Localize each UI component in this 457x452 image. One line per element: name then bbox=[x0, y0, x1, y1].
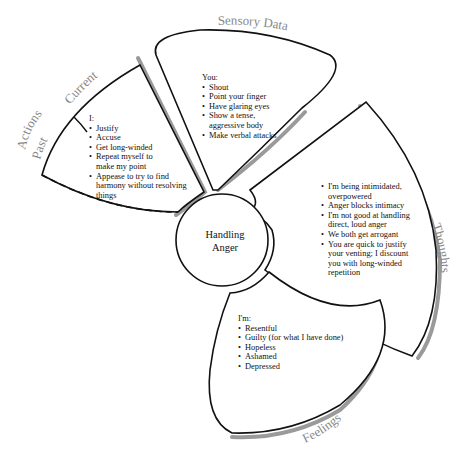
thoughts-list: I'm being intimidated, overpowered Anger… bbox=[321, 182, 411, 278]
list-item: We both get arrogant bbox=[321, 230, 411, 240]
feelings-text: I'm: Resentful Guilty (for what I have d… bbox=[238, 314, 358, 372]
list-item: Anger blocks intimacy bbox=[321, 201, 411, 211]
sensory-text: You: Shout Point your finger Have glarin… bbox=[202, 73, 312, 140]
list-item: Make verbal attacks bbox=[202, 131, 312, 141]
actions-heading: I: bbox=[89, 114, 199, 124]
list-item: Ashamed bbox=[238, 352, 358, 362]
actions-list: Justify Accuse Get long-winded Repeat my… bbox=[89, 124, 199, 201]
list-item: Appease to try to find harmony without r… bbox=[89, 172, 196, 201]
list-item: Get long-winded bbox=[89, 143, 199, 153]
list-item: Hopeless bbox=[238, 343, 358, 353]
list-item: Accuse bbox=[89, 133, 199, 143]
thoughts-text: I'm being intimidated, overpowered Anger… bbox=[321, 182, 411, 278]
list-item: Resentful bbox=[238, 324, 358, 334]
list-item: I'm being intimidated, overpowered bbox=[321, 182, 411, 201]
actions-text: I: Justify Accuse Get long-winded Repeat… bbox=[89, 114, 199, 200]
sensory-list: Shout Point your finger Have glaring eye… bbox=[202, 83, 312, 141]
list-item: Show a tense, aggressive body bbox=[202, 111, 281, 130]
list-item: Shout bbox=[202, 83, 312, 93]
list-item: I'm not good at handling direct, loud an… bbox=[321, 211, 411, 230]
list-item: You are quick to justify your venting; I… bbox=[321, 240, 411, 278]
feelings-list: Resentful Guilty (for what I have done) … bbox=[238, 324, 358, 372]
center-label: Handling Anger bbox=[190, 228, 260, 254]
list-item: Guilty (for what I have done) bbox=[238, 333, 358, 343]
center-label-line2: Anger bbox=[190, 241, 260, 254]
list-item: Depressed bbox=[238, 362, 358, 372]
center-label-line1: Handling bbox=[190, 228, 260, 241]
list-item: Repeat myself to make my point bbox=[89, 152, 166, 171]
feelings-heading: I'm: bbox=[238, 314, 358, 324]
list-item: Justify bbox=[89, 124, 199, 134]
list-item: Point your finger bbox=[202, 92, 312, 102]
list-item: Have glaring eyes bbox=[202, 102, 312, 112]
sensory-heading: You: bbox=[202, 73, 312, 83]
label-past: Past bbox=[28, 134, 50, 161]
